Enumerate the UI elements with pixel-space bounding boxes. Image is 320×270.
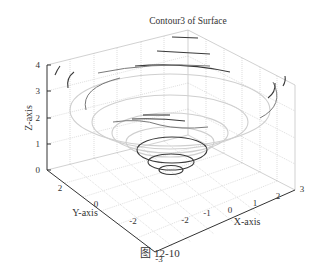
svg-text:-1: -1 — [203, 208, 211, 218]
z-axis-label: Z-axis — [23, 105, 34, 131]
y-axis-label: Y-axis — [72, 207, 98, 218]
svg-text:0: 0 — [228, 205, 233, 215]
grid-right-wall — [188, 39, 295, 181]
svg-text:-2: -2 — [129, 216, 137, 226]
grid-left-wall — [47, 36, 188, 164]
svg-text:1: 1 — [36, 139, 41, 149]
svg-text:2: 2 — [276, 191, 281, 201]
svg-text:3: 3 — [300, 184, 305, 194]
x-axis-label: X-axis — [234, 216, 261, 227]
svg-text:-2: -2 — [181, 215, 189, 225]
contour-lines — [55, 37, 285, 175]
figure-caption: 图 12-10 — [0, 244, 320, 260]
svg-text:1: 1 — [253, 198, 258, 208]
svg-text:2: 2 — [36, 113, 41, 123]
y-tick-labels: 2 0 -2 — [58, 183, 137, 226]
chart-title: Contour3 of Surface — [149, 16, 227, 26]
svg-text:0: 0 — [36, 165, 41, 175]
svg-text:2: 2 — [58, 183, 63, 193]
svg-text:3: 3 — [36, 86, 41, 96]
svg-text:4: 4 — [36, 60, 41, 70]
z-tick-labels: 4 3 2 1 0 — [36, 60, 41, 175]
contour3-figure: Contour3 of Surface — [0, 0, 320, 270]
